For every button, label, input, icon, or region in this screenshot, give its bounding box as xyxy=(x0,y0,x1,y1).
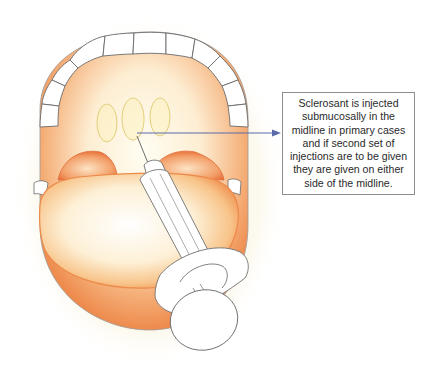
callout-text: Sclerosant is injected submucosally in t… xyxy=(290,97,407,189)
injection-site-right xyxy=(150,98,170,136)
injection-site-midline xyxy=(122,98,144,140)
callout-box: Sclerosant is injected submucosally in t… xyxy=(282,92,415,195)
injection-sites xyxy=(97,98,170,142)
injection-site-left xyxy=(97,104,117,142)
